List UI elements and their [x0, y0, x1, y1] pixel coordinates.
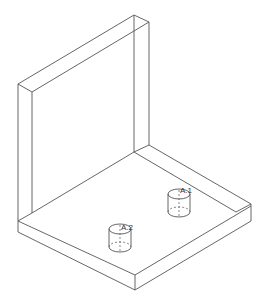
- pin-a2: A.2: [109, 223, 134, 253]
- base-plate: [18, 145, 251, 290]
- drawing-canvas: A.1 A.2: [0, 0, 266, 303]
- pin-a1: A.1: [168, 186, 193, 218]
- pin-a1-label: A.1: [180, 186, 193, 195]
- pin-a2-label: A.2: [121, 223, 134, 232]
- isometric-bracket-drawing: A.1 A.2: [0, 0, 266, 303]
- vertical-wall: [18, 15, 149, 221]
